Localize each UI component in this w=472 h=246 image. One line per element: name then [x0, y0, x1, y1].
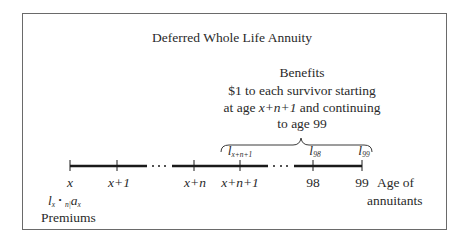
benefits-line-2: at age x+n+1 and continuing: [224, 101, 381, 115]
axis-label-line-1: Age of: [377, 176, 414, 190]
a-symbol: a: [71, 193, 78, 208]
survivors-label-x-n-1: lx+n+1: [228, 144, 253, 159]
tick-label-x-n: x+n: [184, 176, 206, 190]
multiply-dot: •: [58, 195, 61, 205]
benefits-line-1: $1 to each survivor starting: [228, 84, 376, 98]
benefits-line-2-suffix: and continuing: [300, 100, 381, 115]
tick-label-98: 98: [306, 176, 320, 190]
tick-label-99: 99: [355, 176, 369, 190]
ellipsis-dots-2: [273, 165, 288, 167]
premiums-expression: lx • n|ax: [48, 194, 81, 209]
benefits-heading: Benefits: [280, 66, 325, 80]
l-subscript: x+n+1: [231, 150, 252, 159]
ellipsis-dots-1: [152, 165, 166, 167]
benefits-line-2-prefix: at age: [224, 100, 259, 115]
benefits-start-age: x+n+1: [259, 100, 297, 115]
benefits-line-3: to age 99: [277, 117, 327, 131]
l-subscript: 98: [313, 150, 321, 159]
l-subscript: x: [52, 200, 55, 209]
a-subscript: x: [78, 200, 81, 209]
tick-label-x-n-1: x+n+1: [221, 176, 259, 190]
survivors-label-99: l99: [358, 144, 369, 159]
tick-label-x-1: x+1: [108, 176, 130, 190]
premiums-label: Premiums: [41, 211, 96, 225]
axis-label-line-2: annuitants: [367, 194, 423, 208]
diagram-title: Deferred Whole Life Annuity: [152, 31, 312, 45]
tick-label-x: x: [67, 176, 73, 190]
l-subscript: 99: [362, 150, 370, 159]
survivors-label-98: l98: [309, 144, 320, 159]
